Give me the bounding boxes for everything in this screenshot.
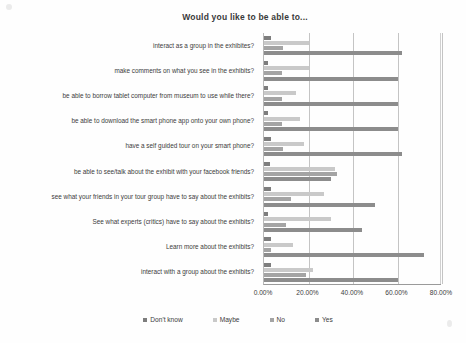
bar-no [264,273,306,277]
scan-artifact [6,4,12,10]
legend-item[interactable]: Maybe [213,316,240,323]
bar-yes [264,77,398,81]
bar-maybe [264,91,296,95]
bar-dontknow [264,237,271,241]
category-label: be able to borrow tablet computer from m… [63,92,254,99]
bar-dontknow [264,263,271,267]
category-label: Learn more about the exhibits? [166,243,254,250]
bar-dontknow [264,187,271,191]
chart-legend: Don't knowMaybeNoYes [0,316,466,323]
chart-container: Would you like to be able to... interact… [0,0,466,343]
bar-no [264,97,282,101]
bar-group [264,184,441,209]
bar-maybe [264,268,313,272]
legend-item[interactable]: Yes [315,316,333,323]
category-axis-labels: interact as a group in the exhibites?mak… [0,33,258,285]
bar-dontknow [264,111,268,115]
bar-yes [264,127,398,131]
bar-group [264,33,441,58]
bar-dontknow [264,61,268,65]
bar-group [264,58,441,83]
bar-no [264,248,271,252]
bar-no [264,147,283,151]
bar-yes [264,102,398,106]
bar-yes [264,203,375,207]
bar-maybe [264,217,331,221]
category-label: make comments on what you see in the exh… [114,67,254,74]
x-tick-label: 0.00% [254,289,273,296]
x-axis-tick-labels: 0.00%20.00%40.00%60.00%80.00% [263,289,441,301]
bar-maybe [264,66,309,70]
bar-dontknow [264,212,268,216]
bar-no [264,197,291,201]
category-label: interact as a group in the exhibites? [153,42,254,49]
bar-maybe [264,192,324,196]
bar-yes [264,152,402,156]
bar-dontknow [264,162,270,166]
bar-maybe [264,142,304,146]
bar-group [264,209,441,234]
legend-item[interactable]: Don't know [143,316,182,323]
category-label: be able to see/talk about the exhibit wi… [74,168,254,175]
category-label: See what experts (critics) have to say a… [92,218,254,225]
plot-area [263,33,441,285]
bar-yes [264,51,402,55]
legend-swatch-icon [270,318,274,322]
bar-maybe [264,117,300,121]
bar-maybe [264,41,309,45]
bar-group [264,260,441,285]
bar-group [264,109,441,134]
bar-no [264,46,283,50]
legend-swatch-icon [315,318,319,322]
bar-maybe [264,167,335,171]
category-label: have a self guided tour on your smart ph… [125,143,254,150]
bar-no [264,223,286,227]
legend-item[interactable]: No [270,316,285,323]
bar-dontknow [264,137,271,141]
bar-no [264,71,282,75]
category-label: see what your friends in your tour group… [52,193,255,200]
legend-label: No [277,316,285,323]
chart-title: Would you like to be able to... [0,12,466,22]
category-label: be able to download the smart phone app … [71,117,254,124]
x-tick-label: 80.00% [430,289,452,296]
bar-yes [264,253,424,257]
bar-no [264,172,337,176]
scan-artifact [447,320,452,327]
bar-group [264,159,441,184]
x-tick-label: 60.00% [385,289,407,296]
bar-group [264,83,441,108]
legend-swatch-icon [213,318,217,322]
bar-group [264,134,441,159]
legend-label: Don't know [150,316,182,323]
bar-no [264,122,282,126]
legend-label: Yes [322,316,333,323]
legend-label: Maybe [220,316,240,323]
x-tick-label: 20.00% [296,289,318,296]
bar-yes [264,228,362,232]
x-tick-label: 40.00% [341,289,363,296]
category-label: interact with a group about the exhibits… [141,269,254,276]
bar-dontknow [264,36,271,40]
bar-yes [264,177,331,181]
bar-maybe [264,243,293,247]
bar-yes [264,278,398,282]
gridline [442,33,443,284]
bar-group [264,235,441,260]
bar-dontknow [264,86,268,90]
legend-swatch-icon [143,318,147,322]
